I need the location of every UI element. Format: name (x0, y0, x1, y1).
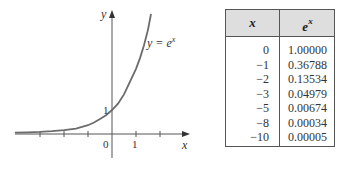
cell-x: 0 (226, 43, 269, 58)
cell-ex: 0.00674 (288, 101, 334, 116)
table-row: −20.13534 (226, 72, 334, 87)
x-tick-label-1: 1 (132, 138, 138, 150)
x-axis-label: x (181, 138, 188, 152)
cell-ex: 0.00005 (288, 130, 334, 145)
table-body: 01.00000 −10.36788 −20.13534 −30.04979 −… (226, 43, 334, 145)
origin-label: 0 (103, 138, 109, 150)
cell-x: −8 (226, 116, 269, 131)
cell-ex: 0.00034 (288, 116, 334, 131)
cell-x: −5 (226, 101, 269, 116)
exponential-curve (15, 14, 151, 133)
y-axis-label: y (100, 7, 107, 21)
cell-ex: 1.00000 (288, 43, 334, 58)
cell-ex: 0.13534 (288, 72, 334, 87)
cell-x: −1 (226, 58, 269, 73)
table-row: 01.00000 (226, 43, 334, 58)
curve-label: y = ex (146, 35, 176, 50)
cell-x: −3 (226, 87, 269, 102)
curve-label-exponent: x (171, 35, 176, 44)
table-row: −80.00034 (226, 116, 334, 131)
cell-x: −10 (226, 130, 269, 145)
table-row: −100.00005 (226, 130, 334, 145)
header-x: x (226, 10, 279, 36)
y-tick-label-1: 1 (103, 104, 109, 116)
header-ex: ex (280, 10, 335, 36)
table-row: −50.00674 (226, 101, 334, 116)
cell-ex: 0.36788 (288, 58, 334, 73)
x-axis-arrow-icon (182, 131, 190, 137)
curve-label-lhs: y = e (146, 36, 172, 50)
exp-values-table: x ex 01.00000 −10.36788 −20.13534 −30.04… (225, 9, 335, 147)
table-row: −10.36788 (226, 58, 334, 73)
table-row: −30.04979 (226, 87, 334, 102)
exponential-graph: y x 0 1 1 y = ex (0, 0, 200, 173)
cell-ex: 0.04979 (288, 87, 334, 102)
cell-x: −2 (226, 72, 269, 87)
header-ex-exponent: x (308, 16, 313, 26)
y-axis-arrow-icon (109, 10, 115, 18)
